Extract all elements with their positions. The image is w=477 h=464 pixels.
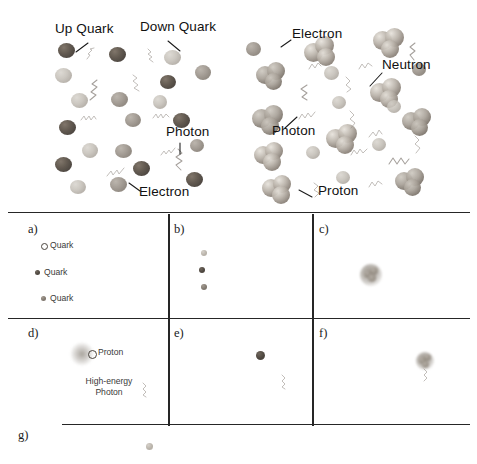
- photon-squiggle: [146, 48, 158, 64]
- nucleon-particle: [395, 168, 425, 196]
- panel-f: f): [312, 318, 477, 424]
- photon-squiggle: [280, 374, 288, 390]
- photon-squiggle: [141, 382, 149, 398]
- label-photon: Photon: [272, 123, 315, 138]
- photon-squiggle: [80, 113, 98, 123]
- photon-squiggle: [298, 110, 316, 122]
- quark-label: Quark: [50, 240, 73, 250]
- quark-particle: [125, 113, 141, 127]
- electron-particle: [324, 66, 339, 80]
- quark-particle: [190, 139, 204, 152]
- nucleon-particle: [256, 62, 286, 90]
- photon-squiggle: [348, 110, 360, 130]
- quark-marker-open: [41, 243, 48, 250]
- label-down-quark: Down Quark: [140, 19, 216, 34]
- label-up-quark: Up Quark: [55, 21, 114, 36]
- electron-particle: [332, 96, 346, 109]
- quark-marker-dark: [35, 270, 40, 275]
- nucleon-particle: [373, 28, 405, 58]
- photon-squiggle: [368, 176, 384, 190]
- quark-particle: [70, 180, 86, 194]
- quark-label: Quark: [44, 267, 67, 277]
- leader-down-quark: [166, 40, 182, 53]
- label-neutron: Neutron: [382, 57, 431, 72]
- nucleon-particle: [254, 142, 284, 171]
- quark-particle: [195, 65, 211, 80]
- photon-squiggle: [368, 124, 384, 140]
- quark-particle: [111, 92, 128, 107]
- photon-squiggle: [308, 58, 324, 72]
- proton-label: Proton: [98, 347, 123, 357]
- panel-a-tag: a): [28, 222, 38, 237]
- nucleon-particle: [402, 108, 432, 136]
- quark-particle: [110, 177, 127, 192]
- label-photon: Photon: [166, 124, 209, 139]
- photon-squiggle: [344, 76, 358, 94]
- photon-squiggle: [412, 135, 424, 155]
- photon-squiggle: [88, 79, 102, 101]
- panel-c-tag: c): [319, 222, 329, 237]
- panel-f-tag: f): [319, 326, 327, 341]
- quark-particle: [153, 95, 167, 109]
- panel-d-tag: d): [28, 326, 38, 341]
- nucleon-particle: [262, 175, 293, 204]
- quark-marker-mid: [201, 284, 207, 290]
- panel-a: a) Quark Quark Quark: [0, 212, 168, 318]
- panel-e: e): [168, 318, 312, 424]
- panel-d: d) Proton High-energy Photon: [0, 318, 168, 424]
- electron-particle: [306, 146, 320, 159]
- photon-squiggle: [422, 368, 430, 382]
- figure-canvas: Up Quark Down Quark Photon Electron: [0, 0, 477, 464]
- photon-squiggle: [152, 112, 170, 122]
- label-proton: Proton: [318, 183, 358, 198]
- high-energy-photon-label-line1: High-energy: [78, 376, 140, 386]
- leader-neutron: [368, 72, 384, 88]
- hadronized-matter-scene: Electron Neutron Photon Proton: [240, 0, 477, 212]
- quark-particle: [55, 157, 72, 172]
- photon-squiggle: [388, 155, 410, 167]
- quark-particle: [133, 161, 150, 176]
- label-electron: Electron: [139, 184, 189, 199]
- quark-particle: [59, 120, 76, 135]
- quark-particle: [58, 43, 75, 58]
- label-electron: Electron: [292, 26, 342, 41]
- quark-marker-dark: [199, 267, 205, 273]
- leader-proton: [296, 188, 314, 200]
- panel-g-tag: g): [18, 428, 28, 443]
- quark-label: Quark: [50, 293, 73, 303]
- electron-particle: [246, 42, 261, 56]
- proton-marker: [88, 350, 97, 359]
- composite-hadron-blob: [360, 264, 382, 286]
- quark-particle: [55, 68, 72, 83]
- leader-photon: [178, 143, 182, 155]
- photon-squiggle: [298, 84, 312, 102]
- panel-b: b): [168, 212, 312, 318]
- quark-particle: [71, 93, 88, 108]
- quark-gluon-plasma-scene: Up Quark Down Quark Photon Electron: [0, 0, 240, 212]
- high-energy-photon-label-line2: Photon: [78, 387, 140, 397]
- quark-particle: [109, 47, 126, 62]
- photon-squiggle: [350, 146, 368, 158]
- quark-marker-light: [146, 443, 153, 450]
- panel-e-tag: e): [174, 326, 184, 341]
- quark-particle: [82, 143, 98, 158]
- leader-up-quark: [74, 42, 90, 54]
- electron-particle: [387, 100, 401, 113]
- photon-squiggle: [106, 165, 126, 179]
- panel-g: g): [0, 424, 477, 464]
- quark-particle: [160, 75, 176, 89]
- photon-squiggle: [358, 58, 374, 72]
- quark-marker-light: [201, 250, 207, 256]
- quark-particle: [115, 144, 132, 158]
- electron-marker: [256, 351, 265, 360]
- panel-c: c): [312, 212, 477, 318]
- quark-marker-mid: [41, 296, 46, 301]
- photon-squiggle: [131, 74, 143, 92]
- panel-b-tag: b): [174, 222, 184, 237]
